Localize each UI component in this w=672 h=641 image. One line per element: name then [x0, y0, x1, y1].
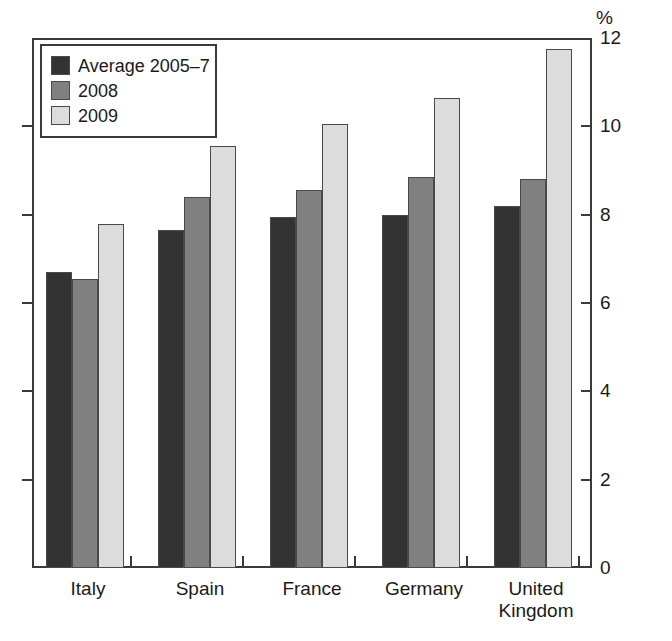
x-axis-tick [354, 556, 356, 568]
bar-chart: % 024681012 ItalySpainFranceGermanyUnite… [0, 0, 672, 641]
y-tick-label-6: 6 [600, 293, 611, 312]
y-tick-left-4 [22, 390, 33, 392]
legend-swatch-2008 [51, 81, 70, 100]
bar-united-kingdom-average-2005-7 [494, 206, 520, 568]
y-tick-right-10 [581, 125, 592, 127]
y-tick-left-10 [22, 125, 33, 127]
bar-spain-2008 [184, 197, 210, 568]
legend-swatch-2009 [51, 106, 70, 125]
y-tick-label-4: 4 [600, 381, 611, 400]
y-tick-left-6 [22, 302, 33, 304]
bar-germany-average-2005-7 [382, 215, 408, 568]
y-tick-right-6 [581, 302, 592, 304]
legend-item-average: Average 2005–7 [51, 53, 206, 78]
x-axis-tick [130, 556, 132, 568]
bar-france-average-2005-7 [270, 217, 296, 568]
legend-label-2008: 2008 [78, 82, 118, 100]
x-axis-label-italy: Italy [26, 578, 150, 600]
bar-france-2008 [296, 190, 322, 568]
y-tick-right-2 [581, 479, 592, 481]
y-tick-label-12: 12 [600, 28, 621, 47]
bar-united-kingdom-2009 [546, 49, 572, 568]
bar-italy-2009 [98, 224, 124, 569]
x-axis-tick [578, 556, 580, 568]
y-tick-left-8 [22, 214, 33, 216]
y-tick-label-10: 10 [600, 116, 621, 135]
bar-spain-average-2005-7 [158, 230, 184, 568]
x-axis-label-germany: Germany [362, 578, 486, 600]
x-axis-tick [466, 556, 468, 568]
y-axis-unit-label: % [596, 8, 613, 27]
legend-label-average: Average 2005–7 [78, 57, 210, 75]
x-axis-label-spain: Spain [138, 578, 262, 600]
y-tick-label-8: 8 [600, 205, 611, 224]
y-tick-right-8 [581, 214, 592, 216]
legend: Average 2005–7 2008 2009 [40, 44, 217, 138]
x-axis-tick [242, 556, 244, 568]
bar-united-kingdom-2008 [520, 179, 546, 568]
bar-spain-2009 [210, 146, 236, 568]
y-tick-right-4 [581, 390, 592, 392]
y-tick-left-2 [22, 479, 33, 481]
y-tick-label-0: 0 [600, 558, 611, 577]
x-axis-label-france: France [250, 578, 374, 600]
bar-germany-2008 [408, 177, 434, 568]
legend-item-2008: 2008 [51, 78, 206, 103]
bar-italy-2008 [72, 279, 98, 568]
y-tick-label-2: 2 [600, 470, 611, 489]
legend-label-2009: 2009 [78, 107, 118, 125]
bar-italy-average-2005-7 [46, 272, 72, 568]
legend-swatch-average [51, 56, 70, 75]
bar-germany-2009 [434, 98, 460, 568]
bar-france-2009 [322, 124, 348, 568]
legend-item-2009: 2009 [51, 103, 206, 128]
x-axis-label-united-kingdom: United Kingdom [474, 578, 598, 622]
